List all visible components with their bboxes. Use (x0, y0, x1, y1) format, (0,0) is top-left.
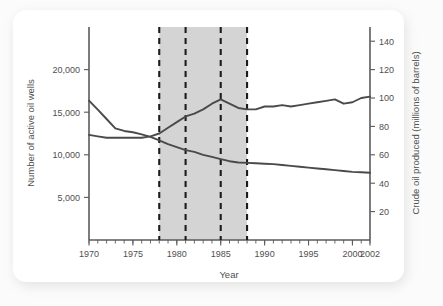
y-left-tick-label: 5,000 (57, 193, 80, 203)
x-tick-label: 2002 (360, 249, 380, 259)
chart-page: 19701975198019851990199520002002 5,00010… (0, 0, 443, 306)
shaded-region-rect (159, 27, 247, 240)
y-right-tick-label: 140 (379, 37, 394, 47)
x-tick-label: 1995 (299, 249, 319, 259)
y-axis-title: Number of active oil wells (25, 79, 36, 187)
x-tick-label: 1980 (167, 249, 187, 259)
y-right-tick-label: 80 (379, 122, 389, 132)
x-tick-label: 1990 (255, 249, 275, 259)
x-tick-label: 1975 (123, 249, 143, 259)
y-left-tick-labels: 5,00010,00015,00020,000 (52, 65, 80, 203)
y-right-tick-label: 60 (379, 150, 389, 160)
x-tick-label: 1985 (211, 249, 231, 259)
y-left-tick-label: 10,000 (52, 150, 80, 160)
y-right-tick-label: 20 (379, 207, 389, 217)
y-right-tick-label: 40 (379, 179, 389, 189)
y-right-tick-label: 100 (379, 93, 394, 103)
chart-svg: 19701975198019851990199520002002 5,00010… (0, 0, 443, 306)
shaded-region (159, 27, 247, 240)
y-right-axis-title: Crude oil produced (millions of barrels) (410, 51, 421, 214)
x-axis-title: Year (219, 269, 238, 280)
y-right-tick-label: 120 (379, 65, 394, 75)
x-tick-label: 1970 (79, 249, 99, 259)
x-tick-labels: 19701975198019851990199520002002 (79, 249, 380, 259)
chart-figure: 19701975198019851990199520002002 5,00010… (0, 0, 443, 306)
y-left-tick-label: 15,000 (52, 108, 80, 118)
y-left-tick-label: 20,000 (52, 65, 80, 75)
y-right-tick-labels: 20406080100120140 (379, 37, 394, 217)
